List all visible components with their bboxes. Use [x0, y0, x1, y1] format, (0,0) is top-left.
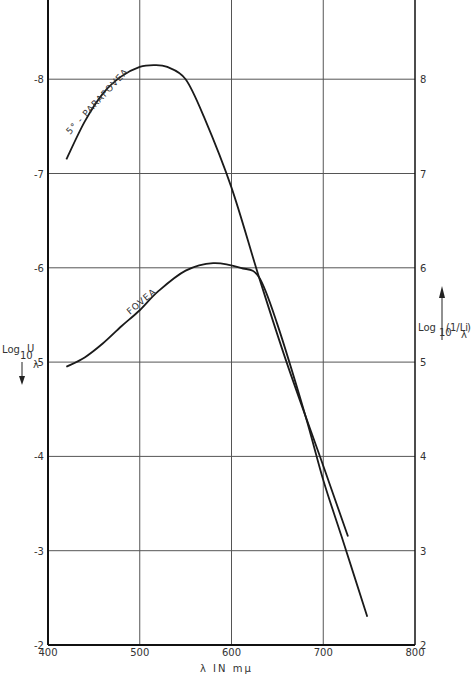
y-tick-label-right: 3: [420, 546, 426, 557]
left-axis-var: U: [27, 343, 34, 354]
series-label-fovea: FOVEA: [125, 286, 158, 316]
right-axis-close: ): [467, 322, 471, 333]
y-tick-label-right: 4: [420, 451, 426, 462]
x-tick-label: 700: [314, 647, 333, 658]
left-axis-label: Log 10 U λ: [2, 343, 39, 385]
chart: 400500600700800-2-3-4-5-6-7-82345678 5° …: [0, 0, 474, 681]
down-arrow-icon: [19, 376, 25, 385]
y-tick-label-right: 7: [420, 169, 426, 180]
y-tick-label-left: -8: [34, 74, 44, 85]
y-tick-label-right: 5: [420, 357, 426, 368]
y-tick-label-left: -7: [34, 169, 44, 180]
left-axis-var-sub: λ: [33, 359, 39, 370]
series: [66, 65, 367, 617]
right-axis-label: Log 10 (1/Li λ ): [418, 286, 471, 340]
right-axis-log: Log: [418, 322, 436, 333]
y-tick-label-left: -3: [34, 546, 44, 557]
y-tick-label-right: 6: [420, 263, 426, 274]
y-tick-label-right: 2: [420, 640, 426, 651]
tick-labels: 400500600700800-2-3-4-5-6-7-82345678: [34, 74, 426, 658]
y-tick-label-left: -4: [34, 451, 44, 462]
y-tick-label-left: -2: [34, 640, 44, 651]
parafovea-curve: [66, 65, 348, 537]
x-tick-label: 500: [130, 647, 149, 658]
fovea-curve: [66, 263, 367, 617]
y-tick-label-left: -6: [34, 263, 44, 274]
series-label-parafovea: 5° - PARAFOVEA: [64, 66, 130, 136]
y-tick-label-right: 8: [420, 74, 426, 85]
x-axis-label: λ IN mμ: [200, 663, 253, 674]
left-axis-log: Log: [2, 344, 20, 355]
x-tick-label: 600: [222, 647, 241, 658]
up-arrow-icon: [439, 286, 445, 298]
